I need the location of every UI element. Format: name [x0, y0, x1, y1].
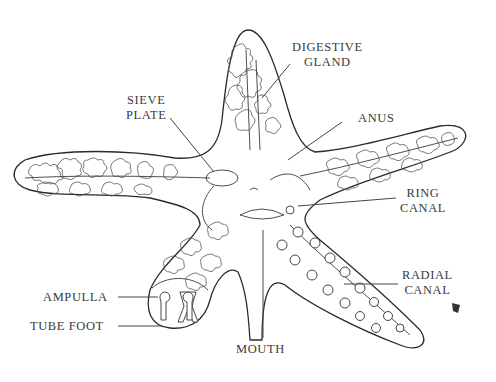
label-tube-foot: TUBE FOOT	[30, 319, 104, 334]
label-line: PLATE	[126, 108, 167, 123]
label-line: RING	[400, 186, 446, 201]
label-ring-canal: RING CANAL	[400, 186, 446, 216]
label-line: CANAL	[402, 283, 453, 298]
label-line: CANAL	[400, 201, 446, 216]
label-line: GLAND	[292, 55, 363, 70]
label-line: RADIAL	[402, 268, 453, 283]
label-sieve-plate: SIEVE PLATE	[126, 93, 167, 123]
label-anus: ANUS	[358, 111, 394, 126]
label-line: DIGESTIVE	[292, 40, 363, 55]
label-ampulla: AMPULLA	[43, 290, 108, 305]
marker-glyph	[452, 303, 460, 313]
label-mouth: MOUTH	[236, 342, 285, 357]
label-line: SIEVE	[126, 93, 167, 108]
label-digestive-gland: DIGESTIVE GLAND	[292, 40, 363, 70]
label-radial-canal: RADIAL CANAL	[402, 268, 453, 298]
